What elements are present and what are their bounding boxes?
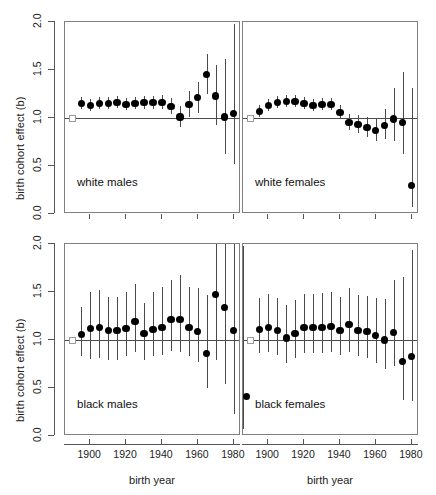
x-tick-label-0-2: 1940	[141, 448, 181, 460]
data-point	[105, 327, 112, 334]
data-point	[96, 100, 103, 107]
reference-square	[69, 115, 76, 122]
y-tick-label-0-2: 1.0	[31, 103, 43, 131]
x-tick-toprow-1-4	[411, 214, 412, 219]
x-tick-1-1	[303, 439, 304, 445]
reference-line	[65, 340, 239, 341]
data-point	[390, 329, 397, 336]
data-point	[122, 101, 129, 108]
x-tick-1-0	[267, 439, 268, 445]
x-tick-toprow-1-3	[375, 214, 376, 219]
confidence-interval	[403, 277, 404, 401]
data-point	[87, 325, 94, 332]
data-point	[185, 324, 192, 331]
data-point	[309, 102, 316, 109]
x-tick-toprow-1-0	[267, 214, 268, 219]
x-tick-toprow-1-2	[339, 214, 340, 219]
confidence-interval	[225, 59, 226, 154]
data-point	[309, 324, 316, 331]
confidence-interval	[162, 287, 163, 355]
y-tick-label-0-0: 0.0	[31, 199, 43, 227]
confidence-interval	[358, 295, 359, 356]
x-tick-label-1-0: 1900	[247, 448, 287, 460]
x-tick-label-1-3: 1960	[355, 448, 395, 460]
x-tick-1-3	[375, 439, 376, 445]
data-point	[131, 318, 138, 325]
x-tick-1-2	[339, 439, 340, 445]
data-point	[212, 92, 219, 99]
data-point	[372, 332, 379, 339]
data-point	[399, 119, 406, 126]
x-tick-0-2	[161, 439, 162, 445]
y-tick-label-0-1: 0.5	[31, 151, 43, 179]
x-tick-label-1-2: 1940	[319, 448, 359, 460]
data-point	[283, 98, 290, 105]
x-tick-0-1	[125, 439, 126, 445]
confidence-interval	[216, 244, 217, 360]
x-tick-toprow-0-1	[125, 214, 126, 219]
data-point	[274, 99, 281, 106]
x-tick-label-0-3: 1960	[177, 448, 217, 460]
data-point	[167, 103, 174, 110]
y-tick-label-1-3: 1.5	[31, 277, 43, 305]
data-point	[140, 330, 147, 337]
data-point	[243, 393, 250, 400]
data-point	[390, 115, 397, 122]
data-point	[354, 121, 361, 128]
x-tick-toprow-0-2	[161, 214, 162, 219]
data-point	[318, 324, 325, 331]
y-axis-label-bottom: birth cohort effect (b)	[14, 262, 26, 422]
x-axis-label-right: birth year	[242, 474, 418, 486]
data-point	[336, 327, 343, 334]
data-point	[176, 113, 183, 120]
confidence-interval	[153, 292, 154, 356]
x-tick-0-3	[197, 439, 198, 445]
confidence-interval	[180, 275, 181, 352]
y-tick-1-0	[48, 435, 54, 436]
data-point	[381, 336, 388, 343]
data-point	[318, 101, 325, 108]
data-point	[363, 124, 370, 131]
data-point	[140, 99, 147, 106]
x-tick-label-0-0: 1900	[69, 448, 109, 460]
y-axis-line-0	[54, 21, 55, 213]
y-tick-label-1-2: 1.0	[31, 325, 43, 353]
panel-white-males: white males	[64, 21, 240, 213]
reference-line	[243, 340, 417, 341]
data-point	[363, 328, 370, 335]
data-point	[113, 99, 120, 106]
data-point	[87, 102, 94, 109]
data-point	[203, 71, 210, 78]
data-point	[230, 110, 237, 117]
panel-label-black-females: black females	[255, 398, 325, 410]
x-tick-label-1-4: 1980	[391, 448, 431, 460]
x-tick-label-1-1: 1920	[283, 448, 323, 460]
confidence-interval	[243, 246, 244, 429]
data-point	[185, 101, 192, 108]
confidence-interval	[394, 280, 395, 365]
data-point	[158, 324, 165, 331]
data-point	[212, 291, 219, 298]
confidence-interval	[376, 298, 377, 363]
data-point	[256, 326, 263, 333]
x-tick-toprow-1-1	[303, 214, 304, 219]
y-tick-label-1-1: 0.5	[31, 373, 43, 401]
data-point	[96, 324, 103, 331]
y-tick-1-2	[48, 339, 54, 340]
data-point	[381, 122, 388, 129]
data-point	[336, 109, 343, 116]
data-point	[149, 326, 156, 333]
data-point	[221, 304, 228, 311]
data-point	[408, 353, 415, 360]
data-point	[408, 182, 415, 189]
data-point	[399, 358, 406, 365]
reference-square	[247, 115, 254, 122]
y-tick-1-4	[48, 243, 54, 244]
data-point	[203, 350, 210, 357]
y-tick-label-0-4: 2.0	[31, 7, 43, 35]
x-axis-label-left: birth year	[64, 474, 240, 486]
data-point	[300, 100, 307, 107]
y-tick-label-1-0: 0.0	[31, 421, 43, 449]
reference-square	[69, 337, 76, 344]
data-point	[256, 108, 263, 115]
